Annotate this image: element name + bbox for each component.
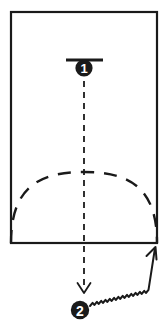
diagram-canvas: 1 2	[0, 0, 167, 330]
up-right-arrowhead-icon	[147, 247, 157, 260]
step-marker-1: 1	[75, 59, 92, 76]
marker-1-label: 1	[80, 61, 87, 76]
marker-2-label: 2	[76, 303, 84, 319]
step-marker-2: 2	[71, 301, 89, 319]
origami-diagram: 1 2	[0, 0, 167, 330]
rotate-pull-arrow	[90, 248, 155, 306]
